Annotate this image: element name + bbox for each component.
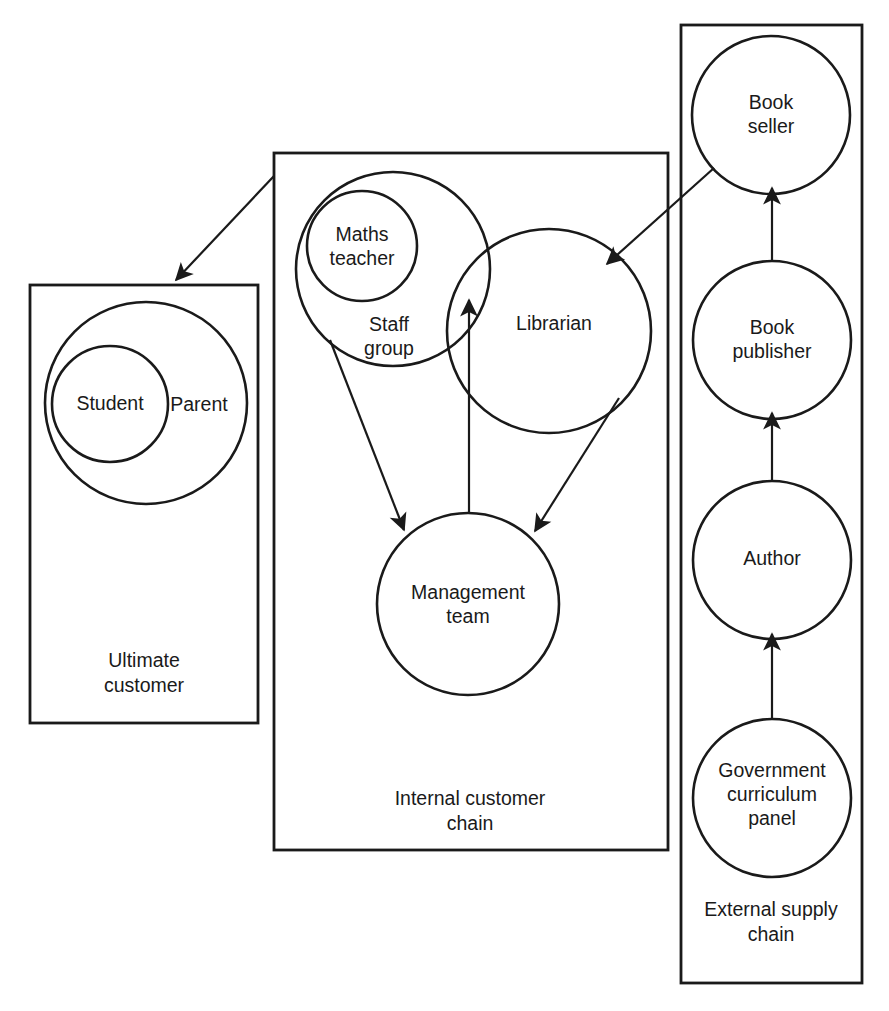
group-arrows bbox=[176, 168, 772, 719]
group-internal-customer-chain: Maths teacher Staff group Librarian Mana… bbox=[274, 153, 668, 850]
label-gov-panel-line3: panel bbox=[748, 807, 796, 829]
box-label-external-chain-line1: External supply bbox=[704, 898, 838, 920]
label-management-team-line2: team bbox=[446, 605, 489, 627]
box-label-internal-chain-line2: chain bbox=[447, 812, 494, 834]
label-maths-teacher-line2: teacher bbox=[329, 247, 395, 269]
circle-maths-teacher bbox=[307, 191, 417, 301]
label-staff-group-line2: group bbox=[364, 337, 414, 359]
circle-management-team bbox=[377, 513, 559, 695]
label-maths-teacher-line1: Maths bbox=[335, 223, 388, 245]
arrow-staff-group-to-management-team bbox=[330, 340, 404, 530]
label-parent: Parent bbox=[170, 393, 228, 415]
label-gov-panel-line1: Government bbox=[718, 759, 826, 781]
group-external-supply-chain: Book seller Book publisher Author Govern… bbox=[681, 25, 862, 983]
label-librarian: Librarian bbox=[516, 312, 592, 334]
box-label-external-chain-line2: chain bbox=[748, 923, 795, 945]
label-author: Author bbox=[743, 547, 801, 569]
arrow-internal-chain-to-ultimate-customer bbox=[176, 176, 274, 280]
box-external-supply-chain bbox=[681, 25, 862, 983]
diagram-root: Student Parent Ultimate customer Maths t… bbox=[0, 0, 889, 1011]
label-book-seller-line2: seller bbox=[748, 115, 795, 137]
label-book-publisher-line2: publisher bbox=[732, 340, 812, 362]
label-gov-panel-line2: curriculum bbox=[727, 783, 817, 805]
label-book-publisher-line1: Book bbox=[750, 316, 795, 338]
box-label-ultimate-customer-line1: Ultimate bbox=[108, 649, 180, 671]
box-label-ultimate-customer-line2: customer bbox=[104, 674, 185, 696]
label-staff-group-line1: Staff bbox=[369, 313, 409, 335]
box-label-internal-chain-line1: Internal customer bbox=[395, 787, 546, 809]
label-student: Student bbox=[76, 392, 144, 414]
label-book-seller-line1: Book bbox=[749, 91, 794, 113]
customer-supply-chain-diagram: Student Parent Ultimate customer Maths t… bbox=[0, 0, 889, 1011]
arrow-librarian-to-management-team bbox=[535, 398, 619, 531]
label-management-team-line1: Management bbox=[411, 581, 525, 603]
group-ultimate-customer: Student Parent Ultimate customer bbox=[30, 285, 258, 723]
arrow-book-seller-to-librarian bbox=[607, 168, 714, 264]
